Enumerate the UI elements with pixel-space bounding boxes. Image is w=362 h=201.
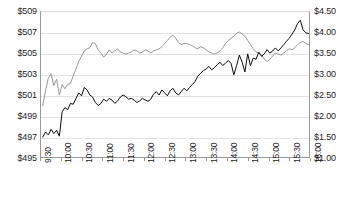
x-axis-tick [102, 158, 103, 161]
x-axis-tick-label: 11:00 [106, 143, 115, 163]
x-axis-tick-label: 10:30 [85, 143, 94, 163]
right-axis-tick-label: $4.00 [314, 28, 358, 37]
x-axis-tick [165, 158, 166, 161]
left-axis-tick-label: $501 [1, 91, 37, 100]
right-axis-tick-label: $2.00 [314, 112, 358, 121]
x-axis-tick-label: 14:00 [230, 143, 239, 163]
right-axis-tick-label: $2.50 [314, 91, 358, 100]
x-axis-tick-label: 12:00 [147, 143, 156, 163]
stock-option-price-chart: $495$497$499$501$503$505$507$509 $1.00$1… [0, 0, 362, 201]
x-axis-tick [227, 158, 228, 161]
x-axis-tick-label: 13:30 [210, 143, 219, 163]
x-axis-tick-label: 9:30 [44, 147, 53, 163]
stock-price-line [43, 32, 309, 106]
left-axis-tick-label: $505 [1, 49, 37, 58]
right-axis-tick-label: $3.50 [314, 49, 358, 58]
x-axis-tick [206, 158, 207, 161]
x-axis-tick [144, 158, 145, 161]
left-axis-tick-label: $495 [1, 154, 37, 163]
series-layer [40, 11, 310, 158]
left-axis-tick-label: $503 [1, 70, 37, 79]
left-axis-tick-label: $497 [1, 133, 37, 142]
x-axis-tick-label: 13:00 [189, 143, 198, 163]
left-axis-tick-label: $509 [1, 7, 37, 16]
x-axis-tick [269, 158, 270, 161]
x-axis-tick-label: 14:30 [251, 143, 260, 163]
x-axis-tick-label: 10:00 [64, 143, 73, 163]
x-axis-tick-label: 15:00 [272, 143, 281, 163]
right-axis-tick-label: $1.50 [314, 133, 358, 142]
x-axis-tick-label: 15:30 [293, 143, 302, 163]
x-axis-tick [82, 158, 83, 161]
right-axis-tick-label: $4.50 [314, 7, 358, 16]
left-axis-tick-label: $507 [1, 28, 37, 37]
x-axis-tick [248, 158, 249, 161]
x-axis-tick [123, 158, 124, 161]
left-axis-tick-label: $499 [1, 112, 37, 121]
x-axis-tick-label: 12:30 [168, 143, 177, 163]
x-axis-tick [289, 158, 290, 161]
x-axis-tick [310, 158, 311, 161]
x-axis-tick [185, 158, 186, 161]
x-axis-tick [61, 158, 62, 161]
right-axis-tick-label: $3.00 [314, 70, 358, 79]
x-axis-tick-label: 11:30 [127, 143, 136, 163]
x-axis-tick-label: 16:00 [314, 143, 323, 163]
x-axis-tick [40, 158, 41, 161]
